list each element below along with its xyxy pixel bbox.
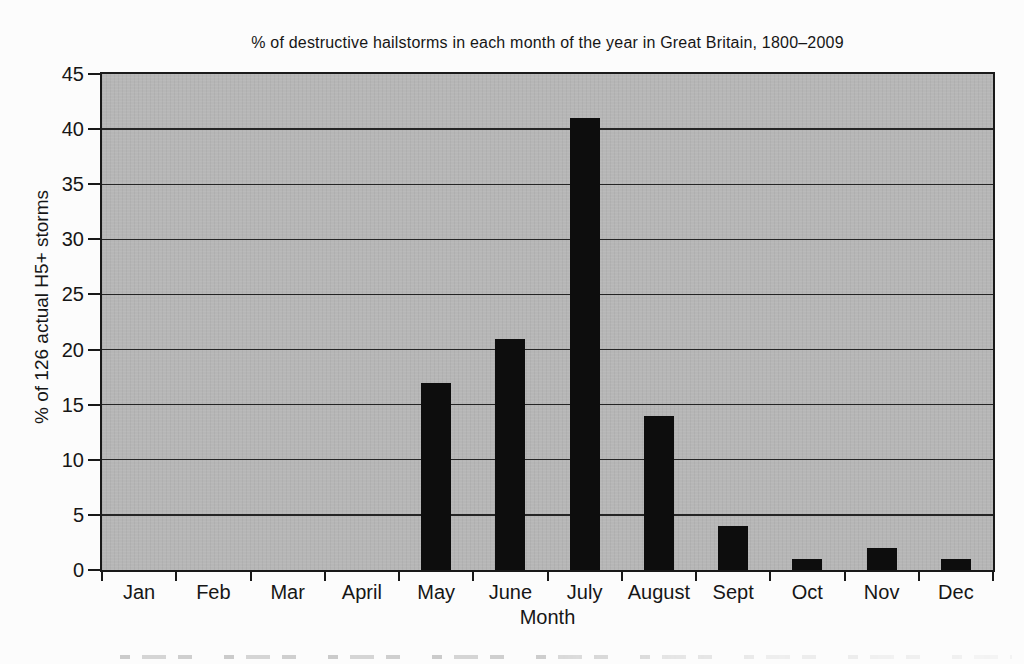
gridline-25 bbox=[102, 294, 993, 295]
x-tick-mark-10 bbox=[844, 572, 846, 581]
y-tick-label-20: 20 bbox=[62, 338, 84, 361]
cropped-caption-fragment bbox=[120, 655, 1012, 659]
y-tick-label-45: 45 bbox=[62, 63, 84, 86]
x-tick-mark-6 bbox=[547, 572, 549, 581]
y-tick-label-35: 35 bbox=[62, 173, 84, 196]
bar-sept bbox=[718, 526, 748, 570]
plot-area bbox=[100, 72, 995, 572]
y-tick-label-40: 40 bbox=[62, 118, 84, 141]
y-axis: 051015202530354045 bbox=[0, 72, 100, 572]
x-tick-mark-3 bbox=[324, 572, 326, 581]
gridline-40 bbox=[102, 128, 993, 129]
x-tick-mark-9 bbox=[769, 572, 771, 581]
bar-july bbox=[570, 118, 600, 570]
x-tick-label-oct: Oct bbox=[792, 581, 823, 604]
x-tick-label-july: July bbox=[567, 581, 603, 604]
bar-august bbox=[644, 416, 674, 570]
bar-nov bbox=[867, 548, 897, 570]
gridline-35 bbox=[102, 184, 993, 185]
y-tick-label-25: 25 bbox=[62, 283, 84, 306]
chart-title: % of destructive hailstorms in each mont… bbox=[100, 34, 995, 52]
gridline-5 bbox=[102, 514, 993, 515]
x-tick-mark-0 bbox=[101, 572, 103, 581]
x-tick-label-august: August bbox=[628, 581, 690, 604]
bar-may bbox=[421, 383, 451, 570]
x-tick-label-nov: Nov bbox=[864, 581, 900, 604]
x-tick-mark-2 bbox=[250, 572, 252, 581]
y-tick-label-10: 10 bbox=[62, 448, 84, 471]
x-tick-label-mar: Mar bbox=[270, 581, 304, 604]
y-tick-label-0: 0 bbox=[73, 559, 84, 582]
y-tick-mark-30 bbox=[88, 238, 100, 240]
y-tick-mark-5 bbox=[88, 514, 100, 516]
y-tick-mark-45 bbox=[88, 73, 100, 75]
bar-oct bbox=[792, 559, 822, 570]
gridline-30 bbox=[102, 239, 993, 240]
x-tick-label-dec: Dec bbox=[938, 581, 974, 604]
x-tick-mark-11 bbox=[918, 572, 920, 581]
y-tick-mark-35 bbox=[88, 183, 100, 185]
x-tick-mark-1 bbox=[175, 572, 177, 581]
y-tick-mark-15 bbox=[88, 404, 100, 406]
bar-june bbox=[495, 339, 525, 570]
x-tick-label-sept: Sept bbox=[713, 581, 754, 604]
gridline-20 bbox=[102, 349, 993, 350]
x-tick-mark-4 bbox=[398, 572, 400, 581]
x-tick-mark-12 bbox=[992, 572, 994, 581]
x-axis-title: Month bbox=[100, 606, 995, 629]
x-tick-label-feb: Feb bbox=[196, 581, 230, 604]
x-tick-label-may: May bbox=[417, 581, 455, 604]
y-tick-label-5: 5 bbox=[73, 503, 84, 526]
x-tick-mark-5 bbox=[472, 572, 474, 581]
x-tick-label-june: June bbox=[489, 581, 532, 604]
y-tick-mark-10 bbox=[88, 459, 100, 461]
y-tick-mark-25 bbox=[88, 293, 100, 295]
y-tick-mark-40 bbox=[88, 128, 100, 130]
hailstorm-bar-chart-figure: % of destructive hailstorms in each mont… bbox=[0, 0, 1024, 664]
y-tick-mark-20 bbox=[88, 349, 100, 351]
y-tick-label-30: 30 bbox=[62, 228, 84, 251]
x-tick-label-april: April bbox=[342, 581, 382, 604]
x-tick-label-jan: Jan bbox=[123, 581, 155, 604]
y-tick-mark-0 bbox=[88, 569, 100, 571]
gridline-15 bbox=[102, 404, 993, 405]
y-tick-label-15: 15 bbox=[62, 393, 84, 416]
x-tick-mark-7 bbox=[621, 572, 623, 581]
gridline-10 bbox=[102, 459, 993, 460]
bar-dec bbox=[941, 559, 971, 570]
x-tick-mark-8 bbox=[695, 572, 697, 581]
